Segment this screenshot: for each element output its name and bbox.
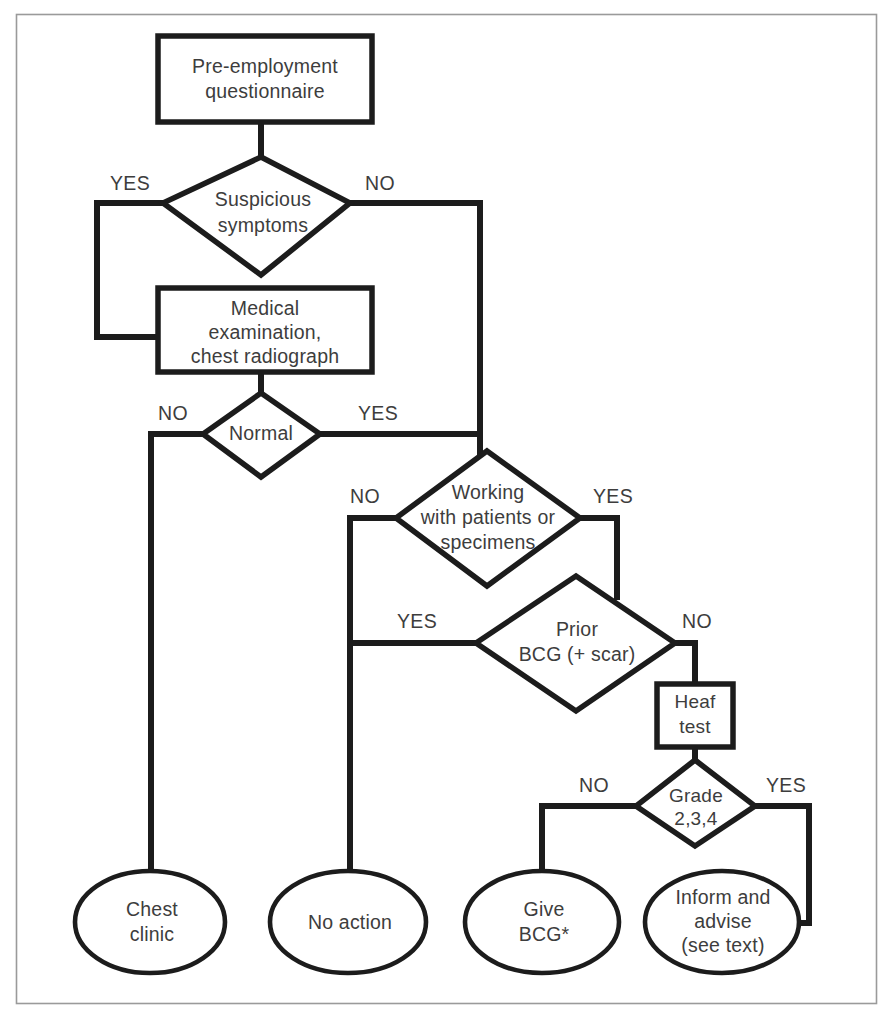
node-label-line-2: examination,	[209, 321, 322, 343]
node-label-line-3: (see text)	[681, 934, 764, 956]
edge-label-normal-yes: YES	[358, 402, 398, 424]
node-label-line-2: questionnaire	[205, 80, 325, 102]
node-label-line-2: advise	[694, 910, 752, 932]
node-normal[interactable]: Normal	[203, 393, 320, 477]
node-label-line-1: Give	[524, 898, 565, 920]
node-label-line-1: Chest	[126, 898, 178, 920]
node-shape-ellipse	[75, 871, 225, 973]
node-heaf-test[interactable]: Heaf test	[657, 684, 733, 747]
node-chest-clinic[interactable]: Chest clinic	[75, 871, 225, 973]
node-give-bcg[interactable]: Give BCG*	[465, 871, 619, 973]
node-label-line-2: symptoms	[218, 214, 308, 236]
edge-label-bcg-no: NO	[682, 610, 712, 632]
node-label-line-1: Suspicious	[215, 188, 311, 210]
edge-label-normal-no: NO	[158, 402, 188, 424]
node-pre-employment-questionnaire[interactable]: Pre-employment questionnaire	[158, 36, 372, 122]
node-label-line-3: specimens	[440, 531, 535, 553]
edge-label-grade-yes: YES	[766, 774, 806, 796]
edge-label-working-yes: YES	[593, 485, 633, 507]
node-inform-and-advise[interactable]: Inform and advise (see text)	[645, 871, 799, 973]
node-label-line-1: No action	[308, 911, 392, 933]
edge-label-working-no: NO	[350, 485, 380, 507]
node-label-line-1: Prior	[556, 618, 598, 640]
node-label-line-2: BCG*	[519, 923, 570, 945]
node-label-line-1: Inform and	[675, 886, 770, 908]
edge-label-bcg-yes: YES	[397, 610, 437, 632]
node-prior-bcg[interactable]: Prior BCG (+ scar)	[476, 576, 675, 711]
node-label-line-1: Heaf	[675, 691, 716, 712]
flowchart-container: Pre-employment questionnaire Suspicious …	[0, 0, 892, 1019]
node-label-line-2: test	[679, 716, 711, 737]
node-label-line-1: Grade	[669, 785, 723, 806]
node-shape-ellipse	[465, 871, 619, 973]
node-label-line-2: clinic	[130, 923, 175, 945]
connector-bcg-no-to-heaf-test	[674, 643, 695, 684]
edge-label-suspicious-yes: YES	[110, 172, 150, 194]
node-working-with-patients[interactable]: Working with patients or specimens	[396, 451, 580, 586]
node-label-line-2: BCG (+ scar)	[519, 643, 636, 665]
node-label-line-1: Pre-employment	[192, 55, 338, 77]
connector-grade-no-to-give-bcg	[542, 806, 636, 872]
node-label-line-1: Normal	[229, 422, 293, 444]
node-label-line-2: 2,3,4	[674, 808, 717, 829]
node-medical-examination[interactable]: Medical examination, chest radiograph	[158, 288, 372, 372]
connector-normal-no-to-chest-clinic	[151, 434, 203, 872]
connector-working-no-to-no-action	[350, 518, 396, 872]
node-suspicious-symptoms[interactable]: Suspicious symptoms	[163, 157, 350, 275]
node-label-line-3: chest radiograph	[191, 345, 339, 367]
connector-suspicious-yes-to-medical	[97, 203, 163, 337]
node-grade-234[interactable]: Grade 2,3,4	[636, 760, 755, 846]
edge-label-grade-no: NO	[579, 774, 609, 796]
edge-label-suspicious-no: NO	[365, 172, 395, 194]
flowchart-svg: Pre-employment questionnaire Suspicious …	[0, 0, 892, 1019]
node-label-line-1: Medical	[231, 297, 300, 319]
node-label-line-2: with patients or	[420, 506, 556, 528]
node-no-action[interactable]: No action	[270, 871, 426, 973]
node-label-line-1: Working	[452, 481, 525, 503]
node-shape-rectangle	[158, 36, 372, 122]
